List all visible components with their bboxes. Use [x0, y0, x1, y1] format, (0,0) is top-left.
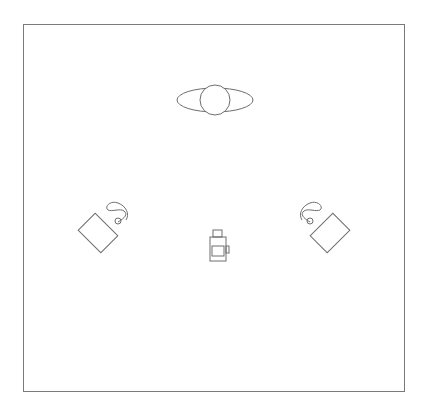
cable-right-icon [300, 202, 321, 224]
lighting-diagram [0, 0, 428, 402]
softbox-left-icon [78, 213, 118, 253]
softbox-right-icon [310, 213, 350, 253]
camera-icon [210, 230, 229, 261]
cable-left-icon [107, 202, 128, 224]
subject-icon [177, 85, 253, 115]
